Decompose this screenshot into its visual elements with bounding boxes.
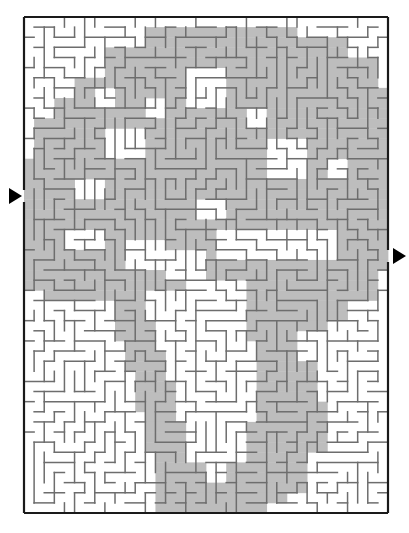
maze-puzzle bbox=[0, 0, 409, 533]
maze-canvas bbox=[0, 0, 409, 533]
